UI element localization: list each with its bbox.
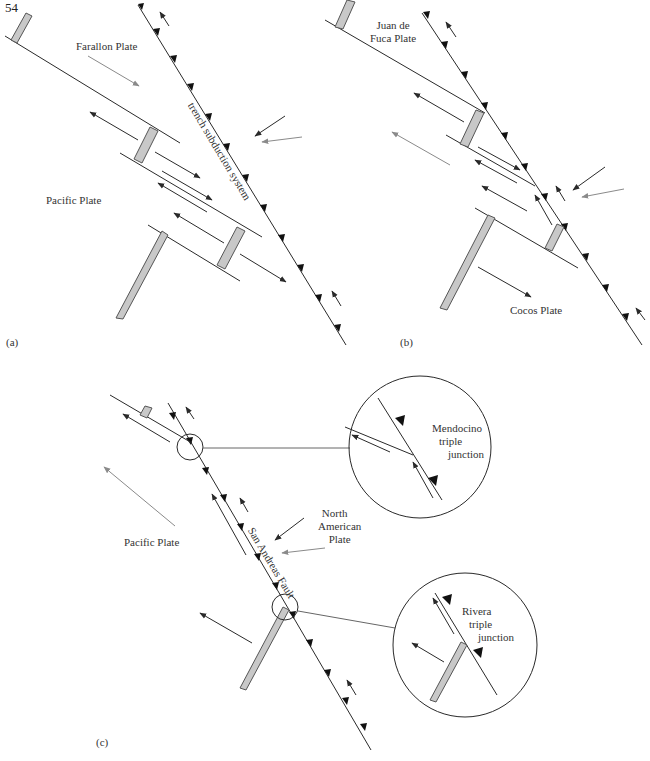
ridge-segment	[116, 231, 168, 319]
ridge-segment	[335, 0, 355, 29]
pacific-plate-label-c: Pacific Plate	[124, 536, 179, 549]
subduction-teeth	[138, 3, 341, 332]
panel-a	[5, 3, 346, 345]
juan-de-fuca-plate-label: Juan de Fuca Plate	[370, 19, 416, 45]
mendocino-inset-label: Mendocino triple junction	[432, 422, 484, 461]
ridge-segment	[545, 224, 564, 251]
trench-line	[168, 403, 371, 750]
subduction-teeth	[423, 11, 629, 321]
panel-c-label: (c)	[96, 736, 108, 749]
farallon-plate-label: Farallon Plate	[76, 40, 137, 53]
north-american-plate-label: North American Plate	[308, 507, 361, 546]
ridge-segment	[134, 127, 158, 163]
ridge-segment	[217, 227, 245, 269]
ridge-segment	[460, 110, 484, 147]
cocos-plate-label: Cocos Plate	[510, 304, 562, 317]
panel-b-label: (b)	[400, 336, 413, 349]
panel-b	[325, 0, 645, 345]
plate-tectonics-diagram	[0, 0, 650, 761]
panel-a-label: (a)	[6, 336, 18, 349]
rivera-inset-label: Rivera triple junction	[462, 605, 514, 644]
ridge-segment	[140, 406, 152, 418]
ridge-segment	[440, 215, 495, 310]
ridge-segment	[11, 13, 32, 43]
pacific-plate-label-a: Pacific Plate	[46, 194, 101, 207]
